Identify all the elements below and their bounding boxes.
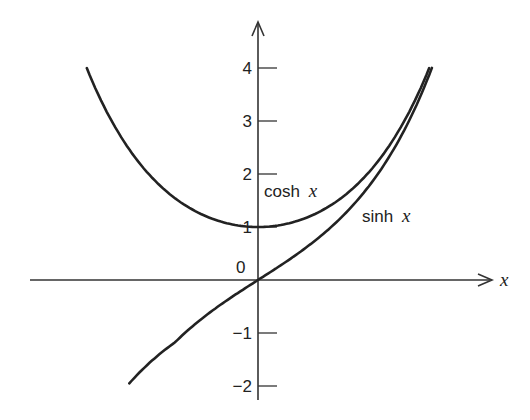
y-tick-label: 2 [243, 165, 252, 184]
curve-labels: cosh x sinh x [264, 180, 411, 226]
origin-label: 0 [236, 258, 245, 277]
y-tick-label: −2 [233, 377, 252, 396]
y-tick-label: −1 [233, 324, 252, 343]
sinh-label-text: sinh [362, 207, 393, 226]
x-axis-label: x [499, 269, 509, 290]
hyperbolic-functions-chart: x 4321−1−2 0 cosh x sinh x [0, 0, 530, 420]
axes: x 4321−1−2 0 [30, 22, 509, 400]
cosh-label-text: cosh [264, 182, 300, 201]
cosh-label: cosh x [264, 180, 318, 201]
y-tick-label: 4 [243, 59, 252, 78]
y-tick-label: 3 [243, 112, 252, 131]
sinh-label: sinh x [362, 205, 411, 226]
cosh-label-var: x [308, 180, 318, 201]
sinh-label-var: x [401, 205, 411, 226]
